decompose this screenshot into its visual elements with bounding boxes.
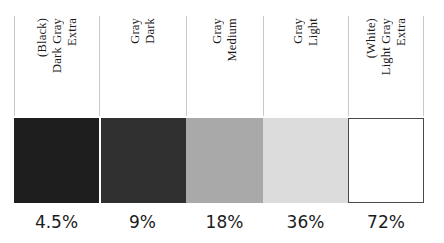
rotated-label-group-2: Medium Gray [210, 18, 240, 114]
chart-header: Extra Dark Gray (Black) Dark Gray Medium… [14, 16, 424, 116]
header-label-line: Dark [143, 18, 158, 44]
swatch-light-gray [263, 118, 348, 203]
header-label-line: Extra [394, 18, 409, 46]
header-cell-extra-light-gray: Extra Light Gray (White) [348, 16, 424, 116]
swatch-extra-light-gray [348, 118, 424, 203]
percent-label-extra-dark-gray: 4.5% [14, 207, 99, 237]
header-label-line: Light [306, 18, 321, 46]
gray-scale-chart: Extra Dark Gray (Black) Dark Gray Medium… [0, 0, 444, 243]
percent-label-dark-gray: 9% [99, 207, 186, 237]
header-cell-extra-dark-gray: Extra Dark Gray (Black) [14, 16, 99, 116]
header-label-line: Gray [128, 18, 143, 44]
percent-label-extra-light-gray: 72% [348, 207, 424, 237]
header-label-line: Light Gray [379, 18, 394, 75]
header-label-line: Dark Gray [49, 18, 64, 73]
percent-label-light-gray: 36% [263, 207, 348, 237]
rotated-label-group-0: Extra Dark Gray (Black) [34, 18, 79, 114]
swatch-dark-gray [99, 118, 186, 203]
swatch-bar [14, 118, 424, 203]
header-label-line: (Black) [34, 18, 49, 57]
header-label-line: Extra [64, 18, 79, 46]
swatch-medium-gray [186, 118, 263, 203]
percent-row: 4.5% 9% 18% 36% 72% [14, 207, 424, 237]
header-cell-light-gray: Light Gray [263, 16, 348, 116]
header-label-line: Medium [225, 18, 240, 62]
percent-label-medium-gray: 18% [186, 207, 263, 237]
swatch-extra-dark-gray [14, 118, 99, 203]
rotated-label-group-3: Light Gray [291, 18, 321, 114]
rotated-label-group-1: Dark Gray [128, 18, 158, 114]
rotated-label-group-4: Extra Light Gray (White) [364, 18, 409, 114]
header-cell-dark-gray: Dark Gray [99, 16, 186, 116]
header-label-line: (White) [364, 18, 379, 58]
header-cell-medium-gray: Medium Gray [186, 16, 263, 116]
header-label-line: Gray [291, 18, 306, 44]
header-label-line: Gray [210, 18, 225, 44]
